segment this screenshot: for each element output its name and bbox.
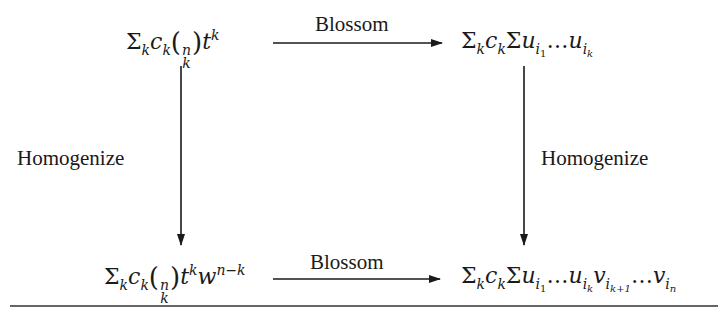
var-u: u bbox=[568, 28, 582, 53]
paren: ( bbox=[149, 262, 159, 292]
var-u: u bbox=[568, 263, 582, 288]
index-sub: k bbox=[587, 48, 593, 59]
node-top-left: Σkck(nk)tk bbox=[126, 28, 220, 70]
paren: ( bbox=[171, 27, 181, 57]
paren: ) bbox=[192, 27, 202, 57]
subscript: ik bbox=[583, 41, 594, 57]
var-u: u bbox=[521, 263, 535, 288]
node-top-right: ΣkckΣui1…uik bbox=[461, 30, 593, 59]
binomial: nk bbox=[182, 44, 191, 70]
superscript: n−k bbox=[216, 262, 245, 278]
var-c: c bbox=[128, 264, 140, 289]
var-u: u bbox=[521, 28, 535, 53]
binom-bottom: k bbox=[160, 292, 168, 305]
subscript: ik+1 bbox=[606, 276, 631, 292]
label-bottom-blossom: Blossom bbox=[310, 250, 384, 275]
node-bottom-left: Σkck(nk)tkwn−k bbox=[104, 263, 246, 305]
label-right-homogenize: Homogenize bbox=[541, 146, 648, 171]
ellipsis: … bbox=[631, 263, 653, 288]
superscript: k bbox=[211, 27, 219, 43]
subscript: i1 bbox=[536, 41, 547, 57]
index-sub: k+1 bbox=[610, 283, 631, 294]
sigma-symbol: Σ bbox=[461, 28, 477, 53]
var-v: v bbox=[653, 263, 665, 288]
label-left-homogenize: Homogenize bbox=[17, 146, 124, 171]
var-v: v bbox=[593, 263, 605, 288]
ellipsis: … bbox=[546, 263, 568, 288]
subscript: in bbox=[665, 276, 676, 292]
subscript: i1 bbox=[536, 276, 547, 292]
subscript: k bbox=[497, 276, 505, 292]
superscript: k bbox=[189, 262, 197, 278]
ellipsis: … bbox=[546, 28, 568, 53]
sigma-symbol: Σ bbox=[506, 263, 522, 288]
label-top-blossom: Blossom bbox=[315, 12, 389, 37]
var-t: t bbox=[180, 264, 189, 289]
var-w: w bbox=[198, 264, 217, 289]
var-c: c bbox=[485, 28, 497, 53]
paren: ) bbox=[170, 262, 180, 292]
sigma-symbol: Σ bbox=[126, 29, 142, 54]
sigma-symbol: Σ bbox=[104, 264, 120, 289]
var-t: t bbox=[202, 29, 211, 54]
subscript: k bbox=[120, 277, 128, 293]
sigma-symbol: Σ bbox=[461, 263, 477, 288]
subscript: ik bbox=[583, 276, 594, 292]
binomial: nk bbox=[160, 279, 169, 305]
subscript: k bbox=[140, 277, 148, 293]
node-bottom-right: ΣkckΣui1…uikvik+1…vin bbox=[461, 265, 676, 294]
var-c: c bbox=[485, 263, 497, 288]
index-sub: n bbox=[670, 283, 676, 294]
var-c: c bbox=[150, 29, 162, 54]
subscript: k bbox=[162, 42, 170, 58]
binom-bottom: k bbox=[182, 57, 190, 70]
subscript: k bbox=[142, 42, 150, 58]
subscript: k bbox=[497, 41, 505, 57]
sigma-symbol: Σ bbox=[506, 28, 522, 53]
subscript: k bbox=[477, 41, 485, 57]
subscript: k bbox=[477, 276, 485, 292]
